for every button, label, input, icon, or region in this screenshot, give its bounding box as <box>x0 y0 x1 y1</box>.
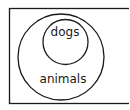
venn-diagram: dogs animals <box>0 0 129 110</box>
dogs-label: dogs <box>51 25 80 39</box>
universe-rectangle <box>10 9 130 104</box>
animals-label: animals <box>40 72 87 86</box>
